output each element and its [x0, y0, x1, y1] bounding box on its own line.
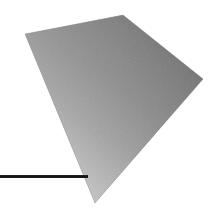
image-canvas [0, 0, 219, 216]
figure-svg [0, 0, 219, 216]
horizontal-rule-core [0, 176, 88, 177]
